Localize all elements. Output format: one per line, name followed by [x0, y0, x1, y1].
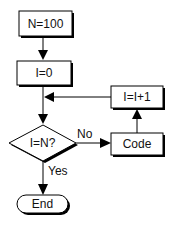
arrowhead-icon: [38, 184, 48, 195]
flowchart-canvas: [0, 0, 173, 231]
edge-label-no: No: [77, 128, 92, 140]
node-label-increment: I=I+1: [111, 91, 163, 103]
node-label-i0: I=0: [17, 67, 71, 79]
arrowhead-icon: [38, 114, 48, 124]
arrowhead-icon: [100, 138, 111, 148]
arrowhead-icon: [132, 109, 142, 119]
arrowhead-icon: [38, 50, 48, 60]
node-label-n100: N=100: [19, 18, 72, 30]
edge-label-yes: Yes: [48, 165, 68, 177]
node-label-end: End: [17, 198, 68, 210]
arrowhead-icon: [44, 92, 54, 102]
node-label-decision: I=N?: [9, 137, 76, 149]
node-label-code: Code: [111, 138, 163, 150]
